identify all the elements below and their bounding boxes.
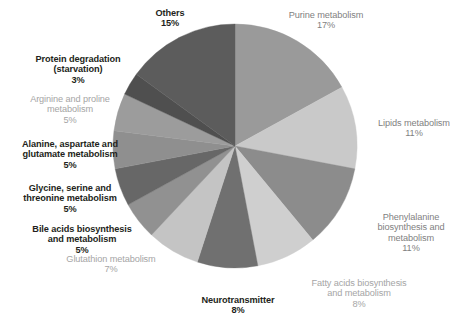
pie-slice-percent: 7% xyxy=(48,264,174,274)
pie-slice-percent: 8% xyxy=(294,299,424,309)
pie-slice-percent: 3% xyxy=(14,75,142,85)
pie-slice-label-text: Alanine, aspartate and glutamate metabol… xyxy=(22,139,118,159)
pie-slice-percent: 5% xyxy=(6,204,134,214)
pie-slice-label: Protein degradation (starvation)3% xyxy=(14,54,142,85)
pie-slice-label: Bile acids biosynthesis and metabolism5% xyxy=(18,224,146,255)
pie-slice-label-text: Glycine, serine and threonine metabolism xyxy=(23,183,116,203)
pie-slice-percent: 17% xyxy=(268,20,384,30)
pie-slice-label: Others15% xyxy=(122,8,218,29)
pie-slice-label-text: Glutathion metabolism xyxy=(66,254,155,264)
pie-slice-percent: 5% xyxy=(18,245,146,255)
pie-slice-label-text: Fatty acids biosynthesis and metabolism xyxy=(311,278,406,298)
pie-slice-label: Glycine, serine and threonine metabolism… xyxy=(6,183,134,214)
pie-slice-label-text: Bile acids biosynthesis and metabolism xyxy=(32,224,131,244)
pie-chart: Purine metabolism17%Lipids metabolism11%… xyxy=(0,0,468,327)
pie-slice-label: Glutathion metabolism7% xyxy=(48,254,174,275)
pie-slice-label-text: Protein degradation (starvation) xyxy=(36,54,121,74)
pie-slice-percent: 15% xyxy=(122,18,218,28)
pie-slice-label-text: Lipids metabolism xyxy=(378,118,450,128)
pie-slice-label-text: Others xyxy=(155,8,184,18)
pie-slice-label: Fatty acids biosynthesis and metabolism8… xyxy=(294,278,424,309)
pie-slice-label-text: Phenylalanine biosynthesis and metabolis… xyxy=(378,212,445,243)
pie-slice-label: Neurotransmitter8% xyxy=(183,295,293,316)
pie-slice-label: Arginine and proline metabolism5% xyxy=(8,94,132,125)
pie-slice-percent: 8% xyxy=(183,305,293,315)
pie-slice-percent: 5% xyxy=(0,160,140,170)
pie-slice-label-text: Neurotransmitter xyxy=(202,295,275,305)
pie-slice-label-text: Arginine and proline metabolism xyxy=(30,94,110,114)
pie-slice-label: Lipids metabolism11% xyxy=(366,118,462,139)
pie-slice-percent: 5% xyxy=(8,115,132,125)
pie-slice-label: Phenylalanine biosynthesis and metabolis… xyxy=(362,212,460,254)
pie-slice-label: Purine metabolism17% xyxy=(268,10,384,31)
pie-slice-label: Alanine, aspartate and glutamate metabol… xyxy=(0,139,140,170)
pie-slice-percent: 11% xyxy=(366,128,462,138)
pie-slice-percent: 11% xyxy=(362,243,460,253)
pie-slice-label-text: Purine metabolism xyxy=(289,10,363,20)
